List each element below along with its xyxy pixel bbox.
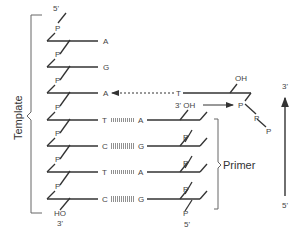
svg-text:P: P — [55, 103, 60, 112]
primer-base-3: A — [138, 168, 144, 177]
template-base-5: C — [102, 142, 108, 151]
svg-text:P: P — [55, 76, 60, 85]
primer-3oh: 3' OH — [175, 101, 195, 110]
svg-text:P: P — [266, 127, 271, 136]
primer-bracket — [214, 119, 221, 209]
direction-3prime: 3' — [282, 82, 288, 91]
svg-text:P: P — [183, 185, 188, 194]
svg-text:P: P — [55, 182, 60, 191]
primer-strand — [147, 110, 207, 211]
template-base-4: T — [102, 116, 107, 125]
svg-text:P: P — [238, 101, 243, 110]
primer-base-4: G — [138, 195, 144, 204]
svg-text:P: P — [183, 159, 188, 168]
primer-base-1: A — [138, 116, 144, 125]
svg-text:P: P — [183, 209, 188, 218]
svg-text:P: P — [254, 114, 259, 123]
svg-text:P: P — [55, 50, 60, 59]
direction-5prime: 5' — [282, 201, 288, 210]
svg-text:P: P — [55, 24, 60, 33]
svg-text:P: P — [183, 133, 188, 142]
incoming-base: T — [176, 89, 181, 98]
template-labels: 5' P P P P P P P A G A T C T C HO 3' — [53, 4, 109, 228]
replication-diagram: 5' P P P P P P P A G A T C T C HO 3' Tem… — [0, 0, 296, 233]
svg-text:P: P — [55, 155, 60, 164]
incoming-oh: OH — [235, 74, 247, 83]
template-5prime: 5' — [53, 4, 59, 13]
template-ho: HO — [54, 209, 66, 218]
template-bracket — [27, 15, 42, 213]
template-base-7: C — [102, 195, 108, 204]
template-base-3: A — [103, 89, 109, 98]
primer-base-2: G — [138, 142, 144, 151]
primer-5prime: 5' — [184, 220, 190, 229]
svg-text:P: P — [55, 129, 60, 138]
primer-label: Primer — [223, 159, 256, 171]
template-3prime: 3' — [57, 219, 63, 228]
template-base-2: G — [103, 63, 109, 72]
template-label: Template — [12, 95, 24, 140]
template-base-1: A — [103, 37, 109, 46]
template-base-6: T — [102, 168, 107, 177]
